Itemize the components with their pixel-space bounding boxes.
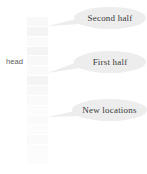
table-cell <box>27 56 48 66</box>
callout-new-locations-label: New locations <box>82 105 136 115</box>
table-cell <box>27 27 48 37</box>
table-cell <box>27 47 48 57</box>
callout-first-half: First half <box>74 51 146 73</box>
table-cell <box>27 66 48 76</box>
table-cell <box>27 145 48 155</box>
table-cell <box>27 96 48 106</box>
table-cell <box>27 86 48 96</box>
callout-first-half-label: First half <box>93 57 128 67</box>
hash-table-column <box>27 17 48 165</box>
callout-new-locations: New locations <box>72 99 147 121</box>
table-cell <box>27 17 48 27</box>
table-cell <box>27 116 48 126</box>
table-cell <box>27 106 48 116</box>
callout-second-half-label: Second half <box>88 13 133 23</box>
table-cell <box>27 135 48 145</box>
table-cell <box>27 155 48 165</box>
table-cell <box>27 76 48 86</box>
callout-second-half: Second half <box>74 7 146 29</box>
head-label: head <box>6 57 23 66</box>
table-cell <box>27 125 48 135</box>
diagram-canvas: head Second half First half New location… <box>0 0 147 174</box>
table-cell <box>27 37 48 47</box>
